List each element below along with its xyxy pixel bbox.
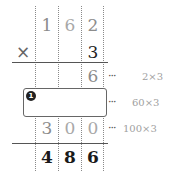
partial-2-note: 60×3 [132, 96, 159, 110]
partial-3-tens: 0 [59, 118, 81, 138]
result-tens: 8 [59, 147, 81, 167]
top-rule [12, 62, 108, 63]
ellipsis: ··· [108, 122, 116, 136]
multiplicand-hundreds: 1 [36, 15, 58, 35]
partial-3-note: 100×3 [123, 122, 157, 136]
result-hundreds: 4 [36, 147, 58, 167]
ellipsis: ··· [108, 96, 116, 110]
bottom-rule [12, 143, 108, 144]
partial-1-note: 2×3 [142, 70, 163, 84]
multiplicand-ones: 2 [82, 15, 104, 35]
multiplicand-tens: 6 [59, 15, 81, 35]
multiplier-ones: 3 [82, 42, 104, 62]
partial-3-hundreds: 3 [36, 118, 58, 138]
partial-1-ones: 6 [82, 66, 104, 86]
result-ones: 6 [82, 147, 104, 167]
ellipsis: ··· [108, 70, 116, 84]
multiply-sign: × [16, 42, 30, 62]
partial-3-ones: 0 [82, 118, 104, 138]
question-number-badge: 1 [26, 91, 36, 101]
answer-box[interactable] [23, 88, 107, 117]
